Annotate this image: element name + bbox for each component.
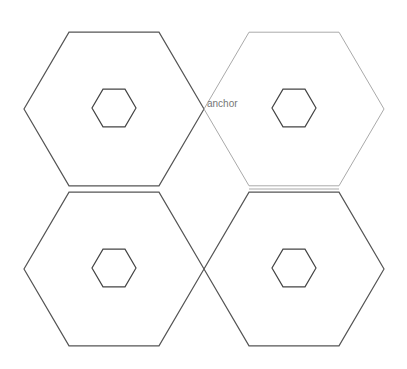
hexagon-bottom-left-inner [92,249,136,287]
inner-hexagons [92,89,316,287]
hexagon-top-right [204,32,384,186]
hexagon-top-right-inner [272,89,316,127]
anchor-label: anchor [207,99,238,109]
hexagon-top-left-inner [92,89,136,127]
hexagon-diagram [0,0,407,369]
hexagon-bottom-right-inner [272,249,316,287]
hexagon-top-left [24,32,204,186]
hexagon-bottom-left [24,192,204,346]
hexagon-bottom-right [204,192,384,346]
